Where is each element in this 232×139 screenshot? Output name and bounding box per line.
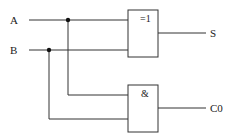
xor-gate-symbol: =1	[140, 14, 151, 24]
input-label-a: A	[10, 15, 18, 26]
junction-a	[66, 18, 70, 22]
and-gate-symbol: &	[141, 89, 149, 99]
junction-b	[47, 48, 51, 52]
circuit-wires	[0, 0, 232, 139]
input-label-b: B	[10, 45, 17, 56]
output-label-c0: C0	[210, 103, 223, 114]
output-label-s: S	[210, 28, 216, 39]
